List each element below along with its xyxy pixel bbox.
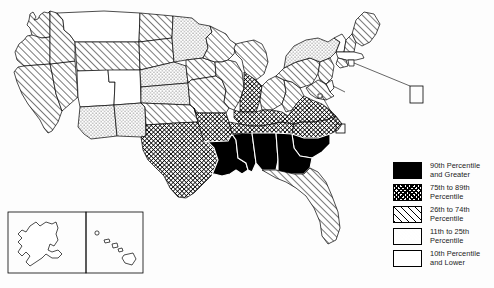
legend-label-26th-line2: Percentile <box>430 214 470 223</box>
state-wyoming <box>75 42 140 71</box>
state-rhode-island <box>348 60 354 66</box>
state-callouts <box>322 63 423 133</box>
legend-label-90th: 90th Percentile and Greater <box>430 161 480 179</box>
legend-label-75th-line1: 75th to 89th <box>430 183 470 192</box>
state-alaska <box>18 222 62 266</box>
legend-label-11th-line1: 11th to 25th <box>430 227 469 236</box>
legend-label-90th-line2: and Greater <box>430 170 480 179</box>
state-oklahoma <box>141 103 198 125</box>
legend-swatch-diagonal-hatch <box>393 206 422 223</box>
legend-item-10th: 10th Percentile and Lower <box>393 249 494 267</box>
map-legend: 90th Percentile and Greater 75th to 89th… <box>393 161 494 271</box>
legend-label-90th-line1: 90th Percentile <box>430 161 480 170</box>
state-district-of-columbia <box>318 94 322 98</box>
legend-item-11th: 11th to 25th Percentile <box>393 227 494 245</box>
legend-item-90th: 90th Percentile and Greater <box>393 161 494 179</box>
state-kansas <box>141 83 190 105</box>
inset-panels <box>8 212 143 273</box>
state-maine <box>352 12 380 46</box>
inset-box-hawaii <box>86 212 143 273</box>
state-hawaii <box>95 231 136 265</box>
legend-label-75th: 75th to 89th Percentile <box>430 183 470 201</box>
legend-label-75th-line2: Percentile <box>430 192 470 201</box>
legend-label-26th: 26th to 74th Percentile <box>430 205 470 223</box>
map-figure: 90th Percentile and Greater 75th to 89th… <box>0 0 494 288</box>
state-oregon <box>15 35 50 66</box>
legend-label-26th-line1: 26th to 74th <box>430 205 470 214</box>
legend-label-10th-line1: 10th Percentile <box>430 249 480 258</box>
state-north-dakota <box>139 13 173 42</box>
legend-swatch-solid-black <box>393 162 422 179</box>
legend-swatch-stipple <box>393 228 422 245</box>
state-new-mexico <box>114 103 146 137</box>
callout-line-rhode-island <box>354 63 410 86</box>
callout-line-delaware <box>333 86 345 92</box>
state-florida <box>262 168 340 244</box>
legend-swatch-cross-hatch <box>393 184 422 201</box>
legend-label-11th: 11th to 25th Percentile <box>430 227 469 245</box>
state-arizona <box>78 105 117 139</box>
legend-label-11th-line2: Percentile <box>430 236 469 245</box>
legend-item-26th: 26th to 74th Percentile <box>393 205 494 223</box>
legend-label-10th-line2: and Lower <box>430 258 480 267</box>
legend-label-10th: 10th Percentile and Lower <box>430 249 480 267</box>
callout-box-rhode-island <box>410 86 423 103</box>
state-washington <box>27 11 50 38</box>
contiguous-states <box>14 11 380 244</box>
legend-item-75th: 75th to 89th Percentile <box>393 183 494 201</box>
legend-swatch-white <box>393 250 422 267</box>
